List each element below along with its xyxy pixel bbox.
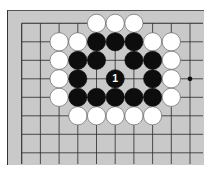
black-stone-icon bbox=[125, 33, 143, 51]
white-stone-icon bbox=[50, 33, 68, 51]
black-stone[interactable] bbox=[144, 51, 162, 69]
white-stone-icon bbox=[162, 51, 180, 69]
white-stone-icon bbox=[144, 107, 162, 125]
move-number-label: 1 bbox=[112, 72, 118, 84]
black-stone[interactable] bbox=[106, 88, 124, 106]
black-stone[interactable] bbox=[87, 88, 105, 106]
white-stone[interactable] bbox=[125, 107, 143, 125]
white-stone-icon bbox=[50, 70, 68, 88]
white-stone-icon bbox=[162, 88, 180, 106]
black-stone-icon bbox=[125, 88, 143, 106]
white-stone-icon bbox=[50, 88, 68, 106]
white-stone-icon bbox=[125, 14, 143, 32]
white-stone-icon bbox=[106, 107, 124, 125]
black-stone-icon bbox=[106, 88, 124, 106]
white-stone[interactable] bbox=[106, 14, 124, 32]
black-stone[interactable] bbox=[144, 88, 162, 106]
stones-layer: 1 bbox=[50, 14, 180, 125]
black-stone[interactable] bbox=[125, 88, 143, 106]
black-stone[interactable] bbox=[69, 51, 87, 69]
white-stone-icon bbox=[106, 14, 124, 32]
black-stone-icon bbox=[144, 51, 162, 69]
white-stone-icon bbox=[87, 107, 105, 125]
black-stone[interactable]: 1 bbox=[106, 70, 124, 88]
black-stone[interactable] bbox=[69, 70, 87, 88]
white-stone[interactable] bbox=[87, 14, 105, 32]
white-stone[interactable] bbox=[162, 51, 180, 69]
black-stone-icon bbox=[125, 51, 143, 69]
black-stone-icon bbox=[69, 51, 87, 69]
black-stone-icon bbox=[87, 33, 105, 51]
white-stone[interactable] bbox=[50, 33, 68, 51]
black-stone[interactable] bbox=[125, 33, 143, 51]
black-stone-icon bbox=[144, 88, 162, 106]
black-stone-icon bbox=[106, 33, 124, 51]
white-stone[interactable] bbox=[50, 70, 68, 88]
black-stone-icon bbox=[144, 70, 162, 88]
white-stone[interactable] bbox=[125, 14, 143, 32]
white-stone-icon bbox=[162, 70, 180, 88]
star-points bbox=[188, 76, 193, 81]
black-stone[interactable] bbox=[87, 51, 105, 69]
white-stone[interactable] bbox=[69, 33, 87, 51]
black-stone[interactable] bbox=[106, 33, 124, 51]
go-board-grid: 1 bbox=[0, 0, 209, 172]
white-stone[interactable] bbox=[50, 88, 68, 106]
white-stone[interactable] bbox=[50, 51, 68, 69]
white-stone[interactable] bbox=[162, 33, 180, 51]
white-stone[interactable] bbox=[69, 107, 87, 125]
black-stone-icon bbox=[87, 88, 105, 106]
black-stone[interactable] bbox=[125, 51, 143, 69]
white-stone-icon bbox=[50, 51, 68, 69]
black-stone-icon bbox=[87, 51, 105, 69]
white-stone[interactable] bbox=[162, 88, 180, 106]
white-stone[interactable] bbox=[162, 70, 180, 88]
white-stone-icon bbox=[69, 33, 87, 51]
white-stone-icon bbox=[125, 107, 143, 125]
white-stone[interactable] bbox=[144, 33, 162, 51]
black-stone[interactable] bbox=[87, 33, 105, 51]
white-stone[interactable] bbox=[87, 107, 105, 125]
white-stone-icon bbox=[162, 33, 180, 51]
white-stone[interactable] bbox=[144, 107, 162, 125]
black-stone[interactable] bbox=[69, 88, 87, 106]
star-point-icon bbox=[188, 76, 193, 81]
white-stone[interactable] bbox=[106, 107, 124, 125]
black-stone-icon bbox=[69, 70, 87, 88]
black-stone-icon bbox=[69, 88, 87, 106]
white-stone-icon bbox=[87, 14, 105, 32]
black-stone[interactable] bbox=[144, 70, 162, 88]
white-stone-icon bbox=[69, 107, 87, 125]
white-stone-icon bbox=[144, 33, 162, 51]
